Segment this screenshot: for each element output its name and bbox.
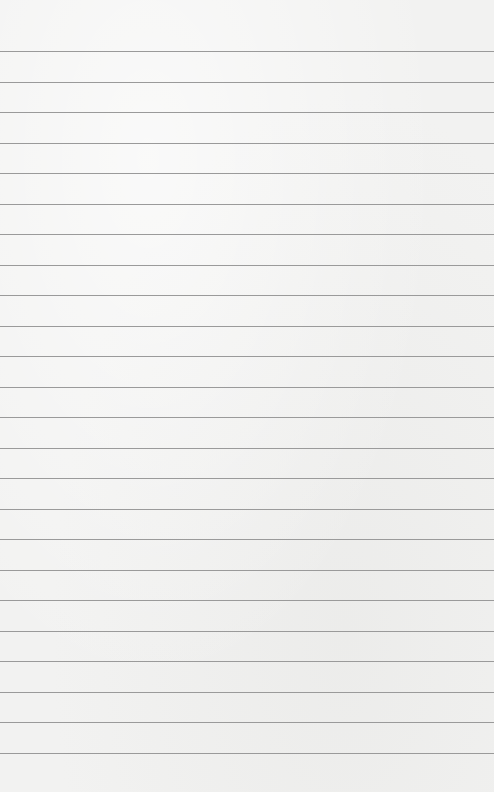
ruled-line	[0, 112, 494, 113]
ruled-line	[0, 570, 494, 571]
ruled-line	[0, 173, 494, 174]
ruled-line	[0, 295, 494, 296]
ruled-line	[0, 417, 494, 418]
ruled-line	[0, 326, 494, 327]
ruled-line	[0, 722, 494, 723]
ruled-line	[0, 204, 494, 205]
ruled-line	[0, 265, 494, 266]
ruled-line	[0, 356, 494, 357]
ruled-line	[0, 509, 494, 510]
ruled-line	[0, 753, 494, 754]
ruled-line	[0, 82, 494, 83]
ruled-line	[0, 51, 494, 52]
ruled-line	[0, 600, 494, 601]
ruled-line	[0, 387, 494, 388]
lined-paper	[0, 0, 494, 792]
ruled-line	[0, 478, 494, 479]
ruled-line	[0, 539, 494, 540]
ruled-line	[0, 448, 494, 449]
ruled-line	[0, 692, 494, 693]
ruled-line	[0, 631, 494, 632]
ruled-line	[0, 661, 494, 662]
ruled-line	[0, 234, 494, 235]
ruled-line	[0, 143, 494, 144]
